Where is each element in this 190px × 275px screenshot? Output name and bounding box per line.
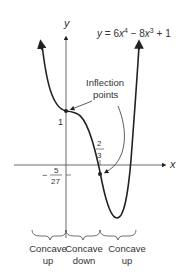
annotation-line1: Inflection bbox=[86, 77, 124, 88]
region-2-line1: Concave bbox=[65, 243, 103, 254]
y-axis-label: y bbox=[63, 17, 71, 29]
region-3-line2: up bbox=[122, 255, 133, 266]
region-2-line2: down bbox=[73, 255, 96, 266]
region-3-line1: Concave bbox=[108, 243, 146, 254]
brace-concave-up-right bbox=[100, 230, 136, 240]
brace-concave-up-left bbox=[32, 230, 66, 240]
equation-label: y = 6x4 − 8x3 + 1 bbox=[96, 27, 171, 39]
tick-neg-sign: − bbox=[42, 170, 47, 180]
concavity-diagram: y x y = 6x4 − 8x3 + 1 Inflection points … bbox=[0, 0, 190, 275]
brace-concave-down bbox=[66, 230, 100, 240]
x-axis-label: x bbox=[169, 158, 176, 170]
tick-x-num: 2 bbox=[97, 139, 102, 148]
inflection-point-2 bbox=[98, 172, 102, 176]
annotation-line2: points bbox=[93, 89, 119, 100]
region-1-line2: up bbox=[43, 255, 54, 266]
tick-x-den: 3 bbox=[97, 151, 102, 160]
tick-y-one: 1 bbox=[58, 117, 63, 127]
tick-y-num: 5 bbox=[54, 166, 59, 175]
inflection-point-1 bbox=[64, 109, 68, 113]
annotation-arrow-2 bbox=[106, 106, 124, 172]
region-1-line1: Concave bbox=[29, 243, 67, 254]
annotation-arrow-1 bbox=[72, 101, 92, 109]
tick-y-den: 27 bbox=[51, 177, 60, 186]
